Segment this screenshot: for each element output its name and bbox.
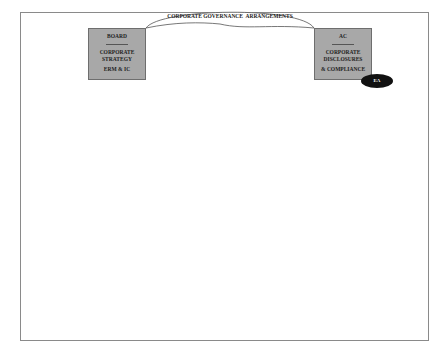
ac-line2: DISCLOSURES: [315, 56, 371, 63]
ac-title: AC: [315, 33, 371, 40]
board-line1: CORPORATE: [89, 49, 145, 56]
ac-line1: CORPORATE: [315, 49, 371, 56]
ac-line3: & COMPLIANCE: [315, 66, 371, 73]
ea-ellipse: EA: [361, 74, 393, 88]
board-separator: [106, 44, 128, 45]
board-title: BOARD: [89, 33, 145, 40]
ea-label: EA: [374, 78, 381, 83]
board-line2: STRATEGY: [89, 56, 145, 63]
board-box: BOARD CORPORATE STRATEGY ERM & IC: [88, 28, 146, 80]
ac-separator: [332, 44, 354, 45]
board-line3: ERM & IC: [89, 66, 145, 73]
governance-arc: [0, 0, 446, 361]
arc-label: CORPORATE GOVERNANCE ARRANGEMENTS: [150, 13, 310, 19]
ac-box: AC CORPORATE DISCLOSURES & COMPLIANCE: [314, 28, 372, 80]
